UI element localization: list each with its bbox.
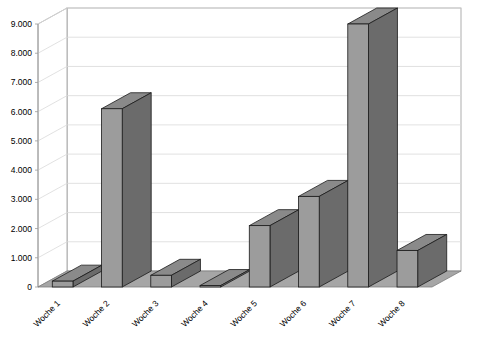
bar-front-face xyxy=(249,226,270,287)
y-axis-tick-label: 8.000 xyxy=(11,48,33,58)
y-axis-tick-label: 6.000 xyxy=(11,107,33,117)
bar-front-face xyxy=(52,281,73,287)
bar-side-face xyxy=(122,93,151,287)
bar-front-face xyxy=(397,250,418,287)
y-axis-tick-label: 7.000 xyxy=(11,77,33,87)
y-axis-tick-label: 5.000 xyxy=(11,136,33,146)
bar-front-face xyxy=(102,109,123,287)
x-axis-category-label: Woche 6 xyxy=(278,298,309,329)
bar-column xyxy=(348,8,398,287)
x-axis-category-label: Woche 4 xyxy=(179,298,210,329)
bar-column xyxy=(249,210,299,287)
bar-side-face xyxy=(319,180,348,287)
bar-front-face xyxy=(151,275,172,287)
bar-side-face xyxy=(368,8,397,287)
y-axis-tick-label: 4.000 xyxy=(11,165,33,175)
x-axis-category-label: Woche 5 xyxy=(228,298,259,329)
x-axis-category-label: Woche 2 xyxy=(81,298,112,329)
y-axis-tick-label: 9.000 xyxy=(11,19,33,29)
bar-column xyxy=(299,180,349,287)
chart-canvas: 01.0002.0003.0004.0005.0006.0007.0008.00… xyxy=(0,0,482,338)
y-axis-tick-label: 2.000 xyxy=(11,224,33,234)
y-axis-tick-label: 1.000 xyxy=(11,253,33,263)
bar-chart-3d: 01.0002.0003.0004.0005.0006.0007.0008.00… xyxy=(0,0,482,338)
bar-front-face xyxy=(299,196,320,287)
x-axis-labels-group: Woche 1Woche 2Woche 3Woche 4Woche 5Woche… xyxy=(31,298,407,329)
bar-front-face xyxy=(200,286,221,287)
x-axis-category-label: Woche 8 xyxy=(376,298,407,329)
bar-column xyxy=(102,93,152,287)
y-axis-tick-label: 0 xyxy=(27,282,32,292)
y-axis-labels-group: 01.0002.0003.0004.0005.0006.0007.0008.00… xyxy=(11,19,33,292)
x-axis-category-label: Woche 3 xyxy=(130,298,161,329)
x-axis-category-label: Woche 7 xyxy=(327,298,358,329)
x-axis-category-label: Woche 1 xyxy=(31,298,62,329)
plot-left-wall xyxy=(38,8,67,287)
bar-front-face xyxy=(348,24,369,287)
y-axis-tick-label: 3.000 xyxy=(11,194,33,204)
